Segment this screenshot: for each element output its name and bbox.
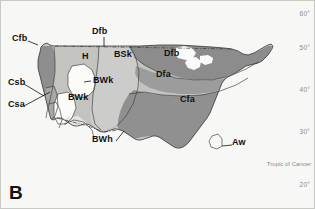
latitude-axis: 60° 50° 40° 30° Tropic of Cancer 20° [269, 0, 315, 209]
zone-label-csa: Csa [8, 100, 25, 109]
zone-label-dfb-north: Dfb [92, 27, 107, 36]
lat-tick-50: 50° [300, 44, 310, 51]
zone-label-h: H [82, 52, 89, 61]
zone-label-dfb-east: Dfb [164, 49, 179, 58]
zone-label-bsk: BSk [114, 50, 132, 59]
zone-label-aw: Aw [232, 138, 246, 147]
panel-letter: B [9, 183, 23, 202]
lat-tick-20: 20° [300, 181, 310, 188]
zone-label-cfb-nw: Cfb [12, 34, 27, 43]
zone-label-dfa: Dfa [156, 70, 171, 79]
zone-label-cfa: Cfa [180, 95, 195, 104]
zone-label-bwk-north: BWk [93, 76, 113, 85]
lat-tick-60: 60° [300, 10, 310, 17]
koppen-climate-map-figure: Cfb Dfb BSk Dfb H Dfa BWk Csb BWk Cfa Cs… [0, 0, 315, 209]
zone-label-csb: Csb [8, 78, 25, 87]
lat-tick-40: 40° [300, 86, 310, 93]
zone-label-bwk-sw: BWk [68, 93, 88, 102]
us-climate-map [0, 0, 315, 209]
lat-tick-30: 30° [300, 128, 310, 135]
zone-label-bwh: BWh [92, 135, 113, 144]
tropic-of-cancer-label: Tropic of Cancer [267, 161, 311, 167]
